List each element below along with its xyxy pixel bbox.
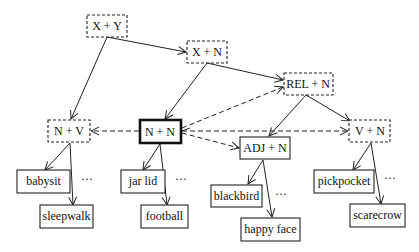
leaf-label: jar lid bbox=[128, 174, 157, 188]
leaf-label: babysit bbox=[26, 174, 61, 188]
leaf-football[interactable]: football bbox=[141, 205, 188, 228]
dashed-edges bbox=[91, 87, 348, 148]
leaf-pickpocket[interactable]: pickpocket bbox=[314, 170, 374, 193]
node-label: N + V bbox=[54, 124, 84, 138]
edge-xy-nv bbox=[71, 37, 107, 119]
node-label: X + N bbox=[192, 45, 222, 59]
edge-adjn-happyface bbox=[263, 160, 272, 217]
edge-xn-reln bbox=[207, 63, 283, 80]
edge-nn-adjn-dashed bbox=[182, 133, 239, 148]
edge-nn-reln-dashed bbox=[182, 87, 283, 128]
compound-hierarchy-diagram: X + Y X + N REL + N N + V N + N ADJ + N … bbox=[0, 0, 419, 252]
edge-vn-pickpocket bbox=[353, 143, 371, 170]
node-v-plus-n[interactable]: V + N bbox=[349, 120, 390, 142]
leaf-label: football bbox=[146, 209, 184, 223]
node-adj-plus-n[interactable]: ADJ + N bbox=[240, 137, 290, 159]
node-label: V + N bbox=[355, 124, 385, 138]
edge-xn-nn bbox=[165, 63, 207, 119]
leaf-label: pickpocket bbox=[318, 174, 371, 188]
leaf-sleepwalk[interactable]: sleepwalk bbox=[40, 205, 93, 228]
node-n-plus-v[interactable]: N + V bbox=[48, 120, 90, 142]
leaf-label: scarecrow bbox=[353, 208, 402, 222]
leaf-happy-face[interactable]: happy face bbox=[241, 218, 300, 241]
node-n-plus-n[interactable]: N + N bbox=[140, 120, 181, 143]
ellipsis-nv: ··· bbox=[81, 172, 93, 186]
leaf-scarecrow[interactable]: scarecrow bbox=[350, 204, 405, 227]
node-label: N + N bbox=[145, 125, 175, 139]
node-label: ADJ + N bbox=[243, 141, 287, 155]
leaf-babysit[interactable]: babysit bbox=[17, 170, 70, 193]
node-label: REL + N bbox=[286, 77, 330, 91]
ellipsis-adjn: ··· bbox=[275, 187, 287, 201]
edge-nv-babysit bbox=[45, 143, 70, 170]
node-x-plus-y[interactable]: X + Y bbox=[87, 15, 127, 37]
leaf-label: happy face bbox=[244, 222, 296, 236]
edge-xy-xn bbox=[107, 37, 186, 52]
leaf-label: sleepwalk bbox=[43, 209, 91, 223]
node-rel-plus-n[interactable]: REL + N bbox=[284, 73, 333, 95]
leaf-jar-lid[interactable]: jar lid bbox=[121, 170, 165, 193]
edge-adjn-blackbird bbox=[248, 160, 263, 184]
ellipsis-vn: ··· bbox=[384, 171, 396, 185]
ellipsis-nn: ··· bbox=[175, 172, 187, 186]
edge-nn-jarlid bbox=[143, 144, 160, 170]
node-x-plus-n[interactable]: X + N bbox=[187, 41, 227, 63]
leaf-label: blackbird bbox=[214, 189, 259, 203]
edge-reln-adjn bbox=[269, 95, 306, 136]
edge-reln-vn bbox=[306, 95, 350, 121]
node-label: X + Y bbox=[92, 19, 122, 33]
leaf-blackbird[interactable]: blackbird bbox=[211, 185, 262, 207]
